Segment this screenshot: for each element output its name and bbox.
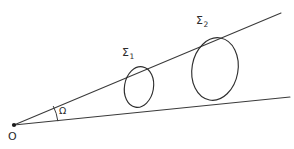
- solid-angle-diagram: Ω O Σ1 Σ2: [0, 0, 294, 149]
- origin-label: O: [8, 131, 17, 142]
- sigma1-subscript: 1: [129, 52, 134, 61]
- sigma1-symbol: Σ: [122, 46, 129, 59]
- angle-arc: [53, 106, 57, 120]
- cross-section-label-sigma2: Σ2: [196, 15, 208, 26]
- sigma2-symbol: Σ: [196, 14, 203, 27]
- angle-label-omega: Ω: [59, 106, 66, 116]
- cross-section-ellipse-sigma1: [121, 64, 157, 109]
- sigma2-subscript: 2: [203, 20, 208, 29]
- cross-section-ellipse-sigma2: [187, 34, 243, 104]
- cross-section-label-sigma1: Σ1: [122, 47, 134, 58]
- apex-point-marker: [12, 123, 16, 127]
- diagram-canvas: [0, 0, 294, 149]
